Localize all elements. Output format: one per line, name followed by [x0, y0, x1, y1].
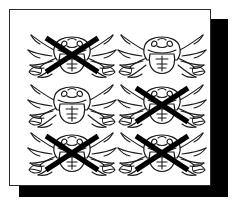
crab-leg-right-2: [182, 50, 206, 56]
claw-pincer-right: [194, 71, 204, 73]
crab-leg-right-3: [181, 61, 204, 65]
grid-cell-crab-r1c2[interactable]: [114, 28, 210, 84]
claw-pincer-left: [120, 121, 130, 123]
crab-leg-right-1: [104, 35, 113, 44]
crab-leg-right-1: [104, 85, 113, 94]
crab-leg-right-3: [91, 61, 114, 65]
crab-leg-right-3: [181, 111, 204, 115]
crab-leg-left-1: [121, 133, 130, 142]
claw-pincer-right: [104, 71, 114, 73]
crab-leg-left-1: [121, 35, 144, 50]
crab-leg-left-1: [31, 85, 54, 100]
screenshot-root: [0, 0, 237, 206]
crab-leg-left-1: [31, 35, 40, 44]
crab-leg-left-3: [120, 111, 143, 115]
crab-illustration: [114, 28, 210, 84]
crab-leg-left-3: [30, 111, 53, 115]
crab-leg-left-2: [28, 100, 52, 106]
crab-leg-left-1: [31, 85, 40, 94]
claw-pincer-left: [120, 169, 130, 171]
crab-leg-left-1: [31, 133, 40, 142]
crab-body-group: [118, 35, 206, 77]
crab-leg-left-2: [28, 148, 52, 154]
claw-pincer-left: [120, 71, 130, 73]
crab-leg-left-3: [30, 61, 53, 65]
crab-leg-right-2: [182, 148, 206, 154]
crab-illustration: [24, 126, 120, 182]
page-frame: [9, 9, 211, 186]
crab-leg-right-3: [91, 111, 114, 115]
crab-leg-right-2: [182, 100, 206, 106]
crab-leg-right-1: [194, 133, 203, 142]
crab-illustration: [24, 28, 120, 84]
crab-leg-right-1: [104, 133, 113, 142]
claw-pincer-right: [194, 121, 204, 123]
crab-leg-right-1: [194, 85, 203, 94]
claw-pincer-left: [30, 71, 40, 73]
crab-leg-right-3: [91, 159, 114, 163]
crab-leg-left-1: [121, 35, 130, 44]
crab-leg-right-2: [92, 100, 116, 106]
crab-leg-left-2: [118, 100, 142, 106]
claw-pincer-right: [104, 121, 114, 123]
crab-leg-right-1: [194, 35, 203, 44]
claw-pincer-left: [30, 121, 40, 123]
crab-leg-left-2: [118, 148, 142, 154]
crab-leg-left-3: [120, 159, 143, 163]
crab-body-group: [28, 85, 116, 127]
crab-leg-left-2: [28, 50, 52, 56]
grid-cell-crab-r1c1[interactable]: [24, 28, 120, 84]
crab-illustration: [114, 126, 210, 182]
claw-pincer-right: [104, 169, 114, 171]
crab-leg-left-2: [118, 50, 142, 56]
crab-leg-right-2: [92, 148, 116, 154]
crab-leg-left-3: [120, 61, 143, 65]
claw-pincer-left: [30, 169, 40, 171]
grid-cell-crab-r3c2[interactable]: [114, 126, 210, 182]
grid-cell-crab-r3c1[interactable]: [24, 126, 120, 182]
crab-leg-right-3: [181, 159, 204, 163]
claw-pincer-right: [194, 169, 204, 171]
crab-grid: [10, 10, 210, 185]
crab-leg-right-1: [180, 35, 203, 50]
crab-leg-left-1: [121, 85, 130, 94]
crab-leg-left-3: [30, 159, 53, 163]
crab-leg-right-2: [92, 50, 116, 56]
crab-leg-right-1: [90, 85, 113, 100]
